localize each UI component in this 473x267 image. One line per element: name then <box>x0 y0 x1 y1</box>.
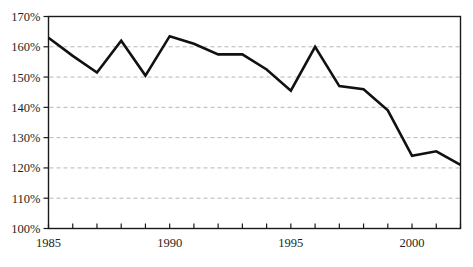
y-axis-tick-label: 120% <box>11 161 40 175</box>
y-axis-tick-label: 170% <box>11 10 40 24</box>
x-axis-tick-label: 1995 <box>278 236 303 250</box>
x-axis-tick-label: 2000 <box>400 236 425 250</box>
x-axis-tick-label: 1990 <box>157 236 182 250</box>
y-axis-tick-label: 150% <box>11 71 40 85</box>
y-axis-tick-label: 140% <box>11 101 40 115</box>
y-axis-tick-label: 110% <box>12 192 41 206</box>
chart-background <box>0 0 473 267</box>
y-axis-tick-label: 160% <box>11 40 40 54</box>
line-chart: 100%110%120%130%140%150%160%170% 1985199… <box>0 0 473 267</box>
x-axis-tick-label: 1985 <box>36 236 61 250</box>
chart-canvas: 100%110%120%130%140%150%160%170% 1985199… <box>0 0 473 267</box>
y-axis-tick-label: 100% <box>11 222 40 236</box>
y-axis-tick-label: 130% <box>11 131 40 145</box>
